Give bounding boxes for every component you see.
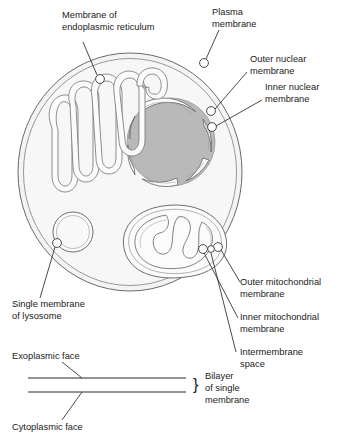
marker-inner-nuclear bbox=[208, 123, 217, 132]
label-inner-nuclear-membrane: Inner nuclear membrane bbox=[265, 82, 322, 104]
marker-inner-mitochondrial bbox=[199, 245, 208, 254]
label-inner-mitochondrial-membrane: Inner mitochondrial membrane bbox=[240, 312, 322, 334]
leader-exoplasmic-face bbox=[62, 362, 82, 378]
leader-cytoplasmic-face bbox=[62, 392, 82, 420]
bilayer-brace: } bbox=[193, 376, 199, 393]
label-bilayer: Bilayer of single membrane bbox=[205, 371, 249, 405]
marker-lysosome bbox=[53, 239, 62, 248]
label-outer-nuclear-membrane: Outer nuclear membrane bbox=[250, 54, 309, 76]
leader-inner-mitochondrial bbox=[204, 253, 238, 318]
leader-intermembrane-space bbox=[211, 253, 236, 352]
leader-outer-nuclear bbox=[215, 72, 247, 109]
label-plasma-membrane: Plasma membrane bbox=[212, 7, 256, 29]
marker-outer-nuclear bbox=[207, 107, 216, 116]
leader-plasma-membrane bbox=[206, 30, 219, 59]
marker-intermembrane-space bbox=[208, 246, 215, 253]
label-endoplasmic-reticulum: Membrane of endoplasmic reticulum bbox=[62, 10, 155, 32]
label-lysosome: Single membrane of lysosome bbox=[12, 299, 87, 321]
leader-lysosome bbox=[40, 247, 55, 298]
cell-membrane-diagram: } Membrane of endoplasmic reticulum Plas… bbox=[0, 0, 344, 445]
label-cytoplasmic-face: Cytoplasmic face bbox=[12, 422, 83, 432]
leader-outer-mitochondrial bbox=[221, 250, 240, 282]
marker-plasma-membrane bbox=[200, 59, 209, 68]
label-outer-mitochondrial-membrane: Outer mitochondrial membrane bbox=[240, 277, 324, 299]
bilayer-diagram: } bbox=[28, 376, 199, 393]
label-intermembrane-space: Intermembrane space bbox=[240, 347, 306, 369]
marker-er bbox=[96, 75, 105, 84]
label-exoplasmic-face: Exoplasmic face bbox=[12, 351, 80, 361]
